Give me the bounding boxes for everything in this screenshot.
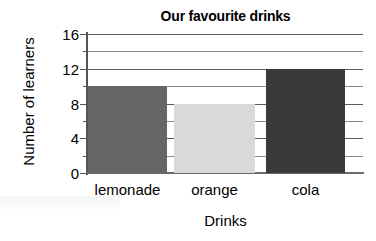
x-tick-label-orange: orange	[174, 181, 255, 198]
gridline-14	[88, 51, 363, 52]
y-tick-4	[80, 138, 87, 139]
y-tick-16	[80, 34, 87, 35]
y-tick-label-8: 8	[71, 95, 79, 112]
y-tick-label-16: 16	[62, 26, 79, 43]
y-tick-12	[80, 69, 87, 70]
y-tick-0	[80, 173, 87, 174]
y-tick-6	[83, 121, 87, 122]
y-tick-label-12: 12	[62, 60, 79, 77]
gridline-16	[88, 34, 363, 35]
bar-orange[interactable]	[174, 104, 255, 174]
x-axis-title: Drinks	[88, 212, 363, 229]
bar-cola[interactable]	[266, 69, 345, 173]
plot-area: 1612840	[88, 34, 363, 173]
y-tick-label-4: 4	[71, 130, 79, 147]
y-tick-label-0: 0	[71, 165, 79, 182]
y-tick-2	[83, 156, 87, 157]
x-tick-label-cola: cola	[266, 181, 345, 198]
bar-chart-figure: Our favourite drinks Number of learners …	[0, 0, 376, 241]
y-tick-14	[83, 51, 87, 52]
y-tick-8	[80, 104, 87, 105]
x-tick-label-lemonade: lemonade	[88, 181, 167, 198]
scan-shadow-artifact	[0, 196, 120, 212]
bar-lemonade[interactable]	[88, 86, 167, 173]
y-axis-title: Number of learners	[20, 12, 37, 192]
y-tick-10	[83, 86, 87, 87]
chart-title: Our favourite drinks	[88, 8, 363, 24]
